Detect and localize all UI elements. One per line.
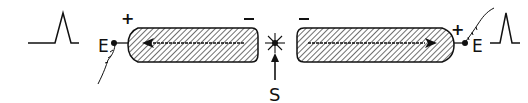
left-electrode-label: E xyxy=(98,36,109,56)
right-electrode-dot xyxy=(462,40,468,46)
source-arrowhead-icon xyxy=(271,53,279,62)
right-pulse-waveform xyxy=(490,13,520,43)
left-plus-sign: + xyxy=(121,9,134,28)
right-electrode-label: E xyxy=(472,36,483,56)
source-label: S xyxy=(269,84,280,103)
left-pulse-waveform xyxy=(28,13,79,43)
right-plus-sign: + xyxy=(451,20,464,39)
diagram-canvas: E + S + E xyxy=(0,0,528,103)
